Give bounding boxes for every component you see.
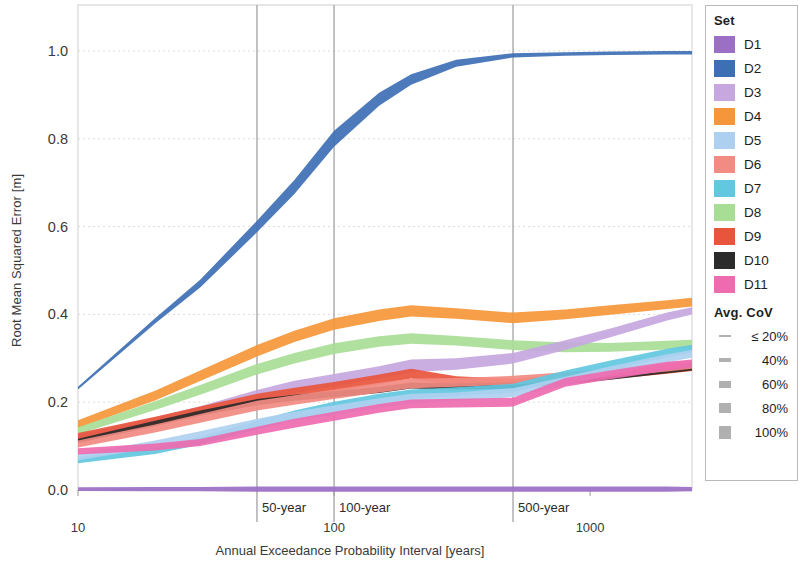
legend-item-label: D3 bbox=[744, 85, 761, 100]
y-tick-label-0.0: 0.0 bbox=[48, 482, 68, 498]
legend-item-d6[interactable]: D6 bbox=[714, 152, 797, 176]
legend-swatch-icon bbox=[714, 204, 735, 221]
legend-item-d8[interactable]: D8 bbox=[714, 200, 797, 224]
legend-item-d7[interactable]: D7 bbox=[714, 176, 797, 200]
plot-area: Root Mean Squared Error [m] 0.00.20.40.6… bbox=[0, 0, 700, 569]
series-band-d1[interactable] bbox=[78, 486, 692, 491]
legend-cov-item[interactable]: 100% bbox=[714, 420, 797, 444]
legend-cov-item[interactable]: ≤ 20% bbox=[714, 324, 797, 348]
legend-item-label: D8 bbox=[744, 205, 761, 220]
chart-screenshot: { "chart_data": { "type": "area", "title… bbox=[0, 0, 803, 569]
legend-swatch-icon bbox=[714, 180, 735, 197]
x-tick-label-100: 100 bbox=[323, 520, 345, 535]
legend-swatch-icon bbox=[714, 36, 735, 53]
legend-swatch-icon bbox=[714, 228, 735, 245]
legend-item-label: D6 bbox=[744, 157, 761, 172]
legend-item-d11[interactable]: D11 bbox=[714, 272, 797, 296]
legend-item-d10[interactable]: D10 bbox=[714, 248, 797, 272]
legend-panel: Set D1D2D3D4D5D6D7D8D9D10D11 Avg. CoV ≤ … bbox=[705, 5, 798, 481]
legend-cov-label: 40% bbox=[740, 353, 788, 368]
legend-item-label: D10 bbox=[744, 253, 769, 268]
y-tick-label-0.8: 0.8 bbox=[48, 131, 68, 147]
legend-item-label: D1 bbox=[744, 37, 761, 52]
legend-swatch-icon bbox=[714, 252, 735, 269]
annotation-label-100-year: 100-year bbox=[339, 500, 391, 515]
annotation-label-500-year: 500-year bbox=[518, 500, 570, 515]
legend-item-d3[interactable]: D3 bbox=[714, 80, 797, 104]
legend-item-label: D5 bbox=[744, 133, 761, 148]
x-tick-label-1000: 1000 bbox=[576, 520, 605, 535]
chart-canvas: 0.00.20.40.60.81.010100100050-year100-ye… bbox=[0, 0, 700, 569]
legend-swatch-icon bbox=[714, 156, 735, 173]
legend-cov-band-icon bbox=[719, 358, 731, 362]
legend-item-d4[interactable]: D4 bbox=[714, 104, 797, 128]
legend-swatch-icon bbox=[714, 108, 735, 125]
legend-cov-label: 100% bbox=[740, 425, 788, 440]
legend-cov-title: Avg. CoV bbox=[714, 305, 797, 320]
y-tick-label-1.0: 1.0 bbox=[48, 43, 68, 59]
legend-item-d2[interactable]: D2 bbox=[714, 56, 797, 80]
legend-cov-band-icon bbox=[719, 381, 731, 388]
annotation-label-50-year: 50-year bbox=[262, 500, 307, 515]
legend-cov-band-icon bbox=[719, 335, 731, 337]
legend-set-title: Set bbox=[714, 13, 797, 28]
legend-cov-label: ≤ 20% bbox=[740, 329, 788, 344]
x-tick-label-10: 10 bbox=[71, 520, 85, 535]
legend-cov-band-icon bbox=[719, 403, 731, 413]
legend-cov-band-icon bbox=[719, 426, 731, 439]
y-tick-label-0.4: 0.4 bbox=[48, 306, 68, 322]
legend-set-items: D1D2D3D4D5D6D7D8D9D10D11 bbox=[714, 32, 797, 296]
y-tick-label-0.2: 0.2 bbox=[48, 394, 68, 410]
legend-cov-item[interactable]: 80% bbox=[714, 396, 797, 420]
legend-cov-items: ≤ 20%40%60%80%100% bbox=[714, 324, 797, 444]
x-axis-title: Annual Exceedance Probability Interval [… bbox=[0, 543, 700, 558]
legend-item-label: D4 bbox=[744, 109, 761, 124]
legend-item-label: D2 bbox=[744, 61, 761, 76]
y-tick-label-0.6: 0.6 bbox=[48, 219, 68, 235]
legend-swatch-icon bbox=[714, 84, 735, 101]
legend-swatch-icon bbox=[714, 132, 735, 149]
legend-cov-item[interactable]: 40% bbox=[714, 348, 797, 372]
legend-item-d5[interactable]: D5 bbox=[714, 128, 797, 152]
legend-item-label: D7 bbox=[744, 181, 761, 196]
legend-swatch-icon bbox=[714, 60, 735, 77]
legend-swatch-icon bbox=[714, 276, 735, 293]
legend-cov-label: 80% bbox=[740, 401, 788, 416]
legend-item-d9[interactable]: D9 bbox=[714, 224, 797, 248]
legend-cov-label: 60% bbox=[740, 377, 788, 392]
legend-item-label: D9 bbox=[744, 229, 761, 244]
legend-item-label: D11 bbox=[744, 277, 768, 292]
legend-item-d1[interactable]: D1 bbox=[714, 32, 797, 56]
legend-cov-item[interactable]: 60% bbox=[714, 372, 797, 396]
